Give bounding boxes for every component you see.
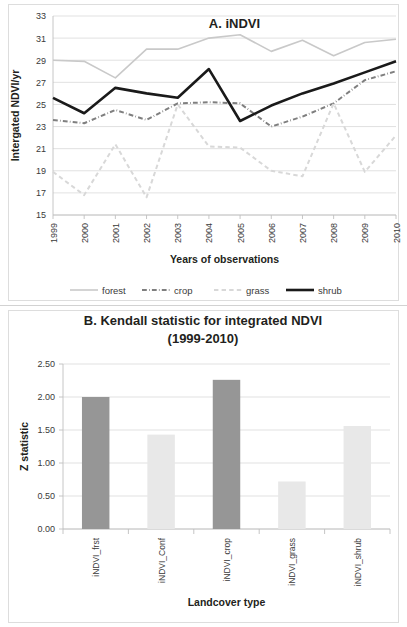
x-tick-label: 2009 <box>360 223 370 243</box>
panel-b-title-line1: B. Kendall statistic for integrated NDVI <box>84 313 322 328</box>
x-category-label-iNDVI_shrub: iNDVI_shrub <box>353 538 363 586</box>
figure-container: 1517192123252729313319992000200120022003… <box>0 0 407 627</box>
x-tick-label: 2002 <box>142 223 152 243</box>
x-category-label-iNDVI_crop: iNDVI_crop <box>222 538 232 582</box>
legend-label-forest: forest <box>102 285 126 296</box>
y-tick-label: 25 <box>36 100 46 110</box>
panel-b-y-axis-title: Z statistic <box>18 422 30 471</box>
y-tick-label: 17 <box>36 188 46 198</box>
x-tick-label: 2010 <box>392 223 402 243</box>
y-tick-label: 1.50 <box>37 425 55 435</box>
series-line-grass <box>53 103 396 197</box>
x-tick-label: 2003 <box>173 223 183 243</box>
panel-a-plot: 1517192123252729313319992000200120022003… <box>0 0 407 306</box>
panel-b-plot: 0.000.501.001.502.002.50iNDVI_frstiNDVI_… <box>0 306 407 627</box>
legend-label-grass: grass <box>246 285 269 296</box>
y-tick-label: 0.50 <box>37 491 55 501</box>
series-line-forest <box>53 35 396 78</box>
bar-iNDVI_crop[interactable] <box>213 380 240 529</box>
panel-a-indvi-line-chart: 1517192123252729313319992000200120022003… <box>0 0 407 306</box>
panel-b-kendall-bar-chart: 0.000.501.001.502.002.50iNDVI_frstiNDVI_… <box>0 306 407 627</box>
y-tick-label: 2.50 <box>37 359 55 369</box>
x-tick-label: 1999 <box>49 223 59 243</box>
y-tick-label: 33 <box>36 11 46 21</box>
x-tick-label: 2005 <box>236 223 246 243</box>
panel-a-x-axis-title: Years of observations <box>170 253 279 265</box>
y-tick-label: 27 <box>36 78 46 88</box>
y-tick-label: 19 <box>36 166 46 176</box>
x-tick-label: 2008 <box>329 223 339 243</box>
panel-a-title: A. iNDVI <box>209 16 260 31</box>
x-tick-label: 2006 <box>267 223 277 243</box>
x-tick-label: 2004 <box>204 223 214 243</box>
y-tick-label: 2.00 <box>37 392 55 402</box>
y-tick-label: 31 <box>36 34 46 44</box>
y-tick-label: 0.00 <box>37 524 55 534</box>
x-category-label-iNDVI_Conf: iNDVI_Conf <box>157 537 167 583</box>
x-tick-label: 2001 <box>111 223 121 243</box>
panel-b-title-line2: (1999-2010) <box>168 331 239 346</box>
bar-iNDVI_grass[interactable] <box>278 481 305 529</box>
panel-b-x-axis-title: Landcover type <box>188 596 266 608</box>
y-tick-label: 15 <box>36 210 46 220</box>
y-tick-label: 29 <box>36 56 46 66</box>
x-category-label-iNDVI_frst: iNDVI_frst <box>91 537 101 576</box>
bar-iNDVI_Conf[interactable] <box>147 435 174 529</box>
bar-iNDVI_shrub[interactable] <box>344 426 371 529</box>
x-tick-label: 2000 <box>80 223 90 243</box>
legend-label-crop: crop <box>174 285 192 296</box>
x-category-label-iNDVI_grass: iNDVI_grass <box>287 538 297 586</box>
series-line-shrub <box>53 61 396 121</box>
legend-label-shrub: shrub <box>318 285 342 296</box>
panel-a-y-axis-title: Intergated NDVI/yr <box>9 70 21 162</box>
y-tick-label: 23 <box>36 122 46 132</box>
x-tick-label: 2007 <box>298 223 308 243</box>
y-tick-label: 1.00 <box>37 458 55 468</box>
y-tick-label: 21 <box>36 144 46 154</box>
bar-iNDVI_frst[interactable] <box>82 397 109 529</box>
